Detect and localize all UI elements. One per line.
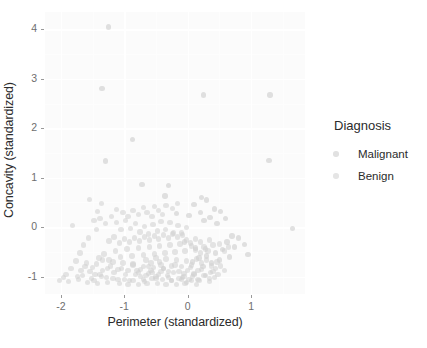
x-tick-label: 0: [179, 300, 197, 312]
data-point: [290, 226, 295, 231]
x-tick-mark: [124, 295, 125, 298]
data-point: [114, 220, 119, 225]
data-point: [207, 215, 212, 220]
y-tick-mark: [41, 227, 44, 228]
y-tick-label: -1: [21, 270, 37, 282]
data-point: [110, 259, 115, 264]
gridline-major-vertical: [124, 12, 125, 294]
data-point: [68, 266, 73, 271]
data-point: [174, 257, 179, 262]
data-point: [162, 193, 167, 198]
y-tick-label: 4: [21, 22, 37, 34]
gridline-major-horizontal: [45, 79, 305, 80]
legend-item-label: Malignant: [358, 148, 408, 160]
data-point: [118, 227, 123, 232]
data-point: [245, 252, 250, 257]
data-point: [213, 250, 218, 255]
data-point: [95, 209, 100, 214]
data-point: [175, 201, 180, 206]
data-point: [181, 274, 186, 279]
data-point: [91, 218, 96, 223]
data-point: [141, 205, 146, 210]
x-tick-mark: [61, 295, 62, 298]
data-point: [105, 280, 110, 285]
data-point: [109, 214, 114, 219]
gridline-major-vertical: [61, 12, 62, 294]
data-point: [177, 241, 182, 246]
x-tick-mark: [188, 295, 189, 298]
data-point: [160, 212, 165, 217]
data-point: [191, 202, 196, 207]
data-point: [91, 278, 96, 283]
data-point: [129, 253, 134, 258]
data-point: [120, 260, 125, 265]
data-point: [175, 223, 180, 228]
data-point: [158, 219, 163, 224]
data-point: [189, 243, 194, 248]
data-point: [174, 211, 179, 216]
data-point: [115, 267, 120, 272]
data-point: [136, 282, 141, 287]
gridline-minor-vertical: [219, 12, 220, 294]
data-point: [94, 227, 99, 232]
data-point: [267, 92, 272, 97]
y-tick-label: 3: [21, 72, 37, 84]
data-point: [210, 242, 215, 247]
data-point: [86, 235, 91, 240]
data-point: [150, 222, 155, 227]
data-point: [217, 241, 222, 246]
data-point: [117, 281, 122, 286]
data-point: [70, 223, 75, 228]
data-point: [147, 237, 152, 242]
data-point: [179, 264, 184, 269]
data-point: [113, 248, 118, 253]
data-point: [169, 263, 174, 268]
x-tick-label: 1: [242, 300, 260, 312]
data-point: [163, 256, 168, 261]
data-point: [185, 268, 190, 273]
legend-entries: MalignantBenign: [326, 143, 408, 187]
data-point: [137, 238, 142, 243]
data-point: [147, 244, 152, 249]
data-point: [139, 182, 144, 187]
data-point: [163, 203, 168, 208]
gridline-minor-horizontal: [45, 104, 305, 105]
data-point: [226, 244, 231, 249]
data-point: [94, 261, 99, 266]
data-point: [242, 242, 247, 247]
legend-key-icon: [326, 166, 346, 186]
data-point: [207, 237, 212, 242]
data-point: [103, 221, 108, 226]
data-point: [141, 264, 146, 269]
y-tick-label: 1: [21, 171, 37, 183]
data-point: [196, 278, 201, 283]
data-point: [111, 234, 116, 239]
data-point: [167, 220, 172, 225]
legend-item-benign[interactable]: Benign: [326, 165, 408, 187]
data-point: [130, 208, 135, 213]
data-point: [144, 210, 149, 215]
data-point: [232, 244, 237, 249]
legend-item-malignant[interactable]: Malignant: [326, 143, 408, 165]
y-tick-mark: [41, 178, 44, 179]
y-tick-mark: [41, 79, 44, 80]
data-point: [236, 235, 241, 240]
x-tick-mark: [251, 295, 252, 298]
data-point: [214, 221, 219, 226]
data-point: [229, 233, 234, 238]
data-point: [212, 275, 217, 280]
y-axis-title: Concavity (standardized): [0, 0, 18, 300]
data-point: [204, 257, 209, 262]
data-point: [114, 207, 119, 212]
data-point: [153, 255, 158, 260]
data-point: [99, 86, 104, 91]
data-point: [97, 216, 102, 221]
plot-panel: [45, 12, 305, 294]
gridline-major-horizontal: [45, 178, 305, 179]
x-axis-title: Perimeter (standardized): [45, 315, 305, 329]
data-point: [127, 239, 132, 244]
gridline-major-horizontal: [45, 128, 305, 129]
data-point: [128, 226, 133, 231]
data-point: [156, 236, 161, 241]
data-point: [171, 270, 176, 275]
